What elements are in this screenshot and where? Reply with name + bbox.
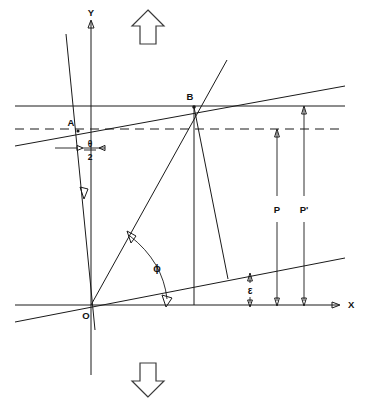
y-axis-label: Y — [88, 7, 95, 18]
slant-line-from-b — [194, 107, 228, 279]
epsilon-angle-label: ε — [248, 285, 253, 296]
upper-inclined-line — [15, 86, 345, 146]
origin-label: O — [82, 310, 89, 321]
diagram-canvas: B A O X Y θ 2 ϕ ε P — [0, 0, 379, 407]
dimension-p-prime-label: P' — [300, 204, 309, 215]
phi-angle-arc — [130, 236, 167, 299]
x-axis-label: X — [348, 299, 355, 310]
half-theta-left-arrowhead — [77, 145, 83, 150]
up-arrow-icon — [132, 10, 164, 44]
point-a-marker — [76, 129, 79, 132]
point-a-label: A — [68, 117, 75, 128]
dimension-p-label: P — [274, 204, 281, 215]
lower-inclined-line — [15, 258, 345, 322]
half-theta-numerator: θ — [88, 139, 93, 149]
down-arrow-icon — [132, 363, 164, 397]
point-b-marker — [192, 105, 196, 109]
geometry-figure: B A O X Y θ 2 ϕ ε P — [0, 0, 379, 407]
point-b-label: B — [187, 91, 194, 102]
phi-angle-label: ϕ — [153, 263, 161, 274]
half-theta-denominator: 2 — [88, 152, 93, 162]
